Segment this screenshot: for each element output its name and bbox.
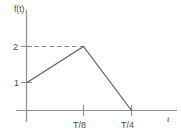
plot-canvas: f(t) t 2 1 T/8 T/4 — [0, 0, 181, 132]
x-tick-label-t-over-8: T/8 — [73, 120, 86, 130]
y-tick-label-2: 2 — [13, 42, 18, 52]
y-axis-label: f(t) — [14, 4, 25, 14]
figure-piecewise-linear-plot: f(t) t 2 1 T/8 T/4 — [0, 0, 181, 132]
x-axis-label: t — [167, 114, 170, 124]
function-curve — [27, 47, 132, 111]
x-tick-label-t-over-4: T/4 — [121, 120, 134, 130]
y-tick-label-1: 1 — [14, 78, 19, 88]
